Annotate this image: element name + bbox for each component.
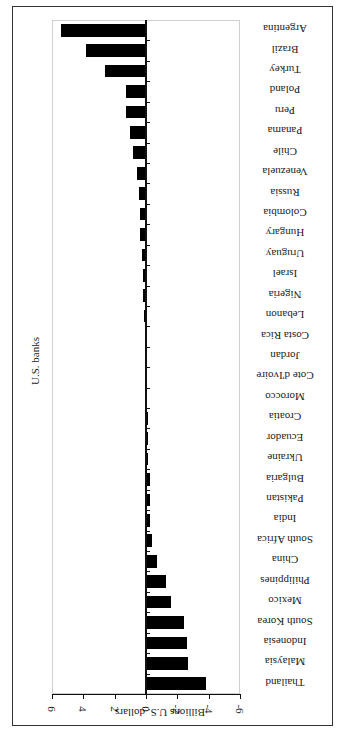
bar — [146, 575, 166, 588]
category-label: Malaysia — [250, 656, 320, 668]
bar — [126, 106, 146, 119]
category-label: Brazil — [250, 44, 320, 56]
category-label: Bulgaria — [250, 473, 320, 485]
category-label: Turkey — [250, 64, 320, 76]
category-label: Ukraine — [250, 452, 320, 464]
category-label: Thailand — [250, 677, 320, 689]
bar — [146, 616, 184, 629]
y-axis-label: Billions U.S. dollars — [100, 707, 220, 719]
category-label: Mexico — [250, 595, 320, 607]
chart-title: U.S. banks — [29, 321, 41, 401]
bar — [105, 65, 146, 78]
category-label: Hungary — [250, 227, 320, 239]
category-label: China — [250, 554, 320, 566]
value-tick-label: 6 — [46, 699, 58, 719]
category-label: Nigeria — [250, 289, 320, 301]
category-label: Israel — [250, 268, 320, 280]
bar — [146, 596, 171, 609]
bar — [146, 534, 152, 547]
category-label: Peru — [250, 105, 320, 117]
category-label: Croatia — [250, 411, 320, 423]
bar — [133, 146, 146, 159]
category-label: South Korea — [250, 616, 320, 628]
category-label: Russia — [250, 187, 320, 199]
category-label: Ecuador — [250, 432, 320, 444]
category-label: Colombia — [250, 207, 320, 219]
bar — [130, 126, 146, 139]
category-label: Costa Rica — [250, 330, 320, 342]
category-label: Chile — [250, 146, 320, 158]
zero-axis-line — [145, 20, 147, 694]
category-label: Venezuela — [250, 166, 320, 178]
bar — [146, 555, 157, 568]
bar — [86, 44, 146, 57]
bar — [146, 637, 187, 650]
category-label: Morocco — [250, 391, 320, 403]
category-label: Pakistan — [250, 493, 320, 505]
category-label: Poland — [250, 84, 320, 96]
bar — [146, 657, 188, 670]
category-label: Argentina — [250, 23, 320, 35]
category-label: Lebanon — [250, 309, 320, 321]
bar — [146, 677, 206, 690]
bar — [61, 24, 146, 37]
category-label: South Africa — [250, 534, 320, 546]
category-label: Uruguay — [250, 248, 320, 260]
category-label: Philippines — [250, 575, 320, 587]
bar — [126, 85, 146, 98]
category-label: India — [250, 513, 320, 525]
category-label: Cote d'Ivoire — [250, 370, 320, 382]
category-label: Indonesia — [250, 636, 320, 648]
value-tick-label: 4 — [77, 699, 89, 719]
category-label: Panama — [250, 125, 320, 137]
category-label: Jordan — [250, 350, 320, 362]
value-tick-label: -6 — [234, 699, 246, 719]
